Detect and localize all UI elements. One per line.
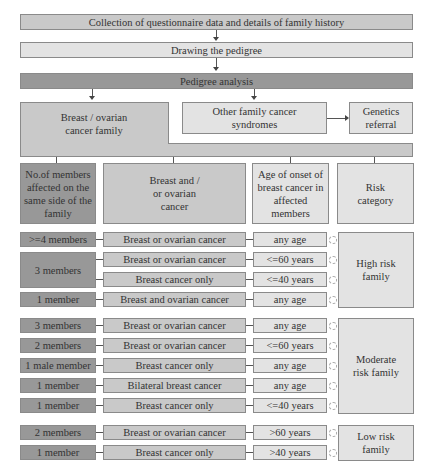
age-label: <=60 years (266, 339, 313, 352)
breast-family-label: Breast / ovarian cancer family (20, 102, 168, 146)
members-cell: 1 member (20, 292, 96, 307)
risk-low-label: Low risk family (353, 430, 399, 456)
cancer-cell: Breast and ovarian cancer (103, 292, 246, 307)
connector (246, 279, 253, 280)
age-cell: <=60 years (253, 338, 327, 353)
step-collection: Collection of questionnaire data and det… (20, 14, 413, 30)
cancer-cell: Breast cancer only (103, 445, 246, 460)
link-connector-icon (329, 382, 337, 390)
cancer-label: Breast or ovarian cancer (123, 233, 225, 246)
connector (96, 345, 103, 346)
cancer-label: Breast or ovarian cancer (123, 253, 225, 266)
age-label: <=40 years (266, 399, 313, 412)
age-cell: any age (253, 378, 327, 393)
arrow-down-icon (213, 67, 219, 71)
cancer-label: Breast or ovarian cancer (123, 319, 225, 332)
cancer-label: Bilateral breast cancer (128, 379, 222, 392)
connector (96, 259, 103, 260)
link-connector-icon (329, 256, 337, 264)
connector (96, 365, 103, 366)
step-pedigree-analysis: Pedigree analysis (20, 73, 413, 89)
header-cancer-label: Breast and / or ovarian cancer (149, 174, 200, 213)
members-label: 1 member (37, 399, 79, 412)
connector (246, 452, 253, 453)
other-syndromes-label: Other family cancer syndromes (203, 105, 306, 131)
members-cell: 3 members (20, 318, 96, 333)
age-label: <=40 years (266, 273, 313, 286)
risk-moderate-label: Moderate risk family (351, 353, 401, 379)
header-members-label: No.of members affected on the same side … (22, 168, 94, 220)
step-collection-label: Collection of questionnaire data and det… (89, 16, 344, 29)
header-age-label: Age of onset of breast cancer in affecte… (254, 168, 327, 220)
link-connector-icon (329, 429, 337, 437)
cancer-label: Breast and ovarian cancer (120, 293, 229, 306)
link-connector-icon (329, 236, 337, 244)
arrow-down-icon (213, 37, 219, 41)
members-cell: 1 male member (20, 358, 96, 373)
members-cell: 3 members (20, 252, 96, 288)
link-connector-icon (329, 322, 337, 330)
connector (96, 432, 103, 433)
members-label: 3 members (35, 264, 81, 277)
connector (96, 385, 103, 386)
genetics-referral-label: Genetics referral (358, 105, 404, 131)
arrow-down-icon (89, 96, 95, 100)
age-label: any age (274, 319, 306, 332)
lshape-edge (168, 143, 413, 144)
cancer-cell: Breast cancer only (103, 398, 246, 413)
members-label: >=4 members (29, 233, 87, 246)
connector (246, 239, 253, 240)
members-cell: >=4 members (20, 232, 96, 247)
link-connector-icon (329, 449, 337, 457)
header-cancer: Breast and / or ovarian cancer (103, 163, 246, 224)
age-cell: any age (253, 318, 327, 333)
members-cell: 2 members (20, 425, 96, 440)
age-cell: <=60 years (253, 252, 327, 267)
step-drawing-pedigree: Drawing the pedigree (20, 42, 413, 58)
connector (246, 345, 253, 346)
header-risk: Risk category (337, 163, 414, 224)
connector (96, 279, 103, 280)
cancer-cell: Breast cancer only (103, 358, 246, 373)
age-label: any age (274, 359, 306, 372)
connector (246, 365, 253, 366)
cancer-cell: Breast or ovarian cancer (103, 318, 246, 333)
connector (246, 385, 253, 386)
members-cell: 2 members (20, 338, 96, 353)
members-label: 1 member (37, 379, 79, 392)
age-label: any age (274, 379, 306, 392)
link-connector-icon (329, 402, 337, 410)
risk-high: High risk family (338, 232, 414, 308)
genetics-referral-box: Genetics referral (349, 102, 413, 134)
cancer-cell: Breast or ovarian cancer (103, 338, 246, 353)
connector (246, 432, 253, 433)
cancer-label: Breast cancer only (135, 359, 213, 372)
members-cell: 1 member (20, 378, 96, 393)
cancer-cell: Breast or ovarian cancer (103, 252, 246, 267)
lshape-edge (168, 102, 169, 144)
connector (96, 239, 103, 240)
connector (96, 299, 103, 300)
age-label: <=60 years (266, 253, 313, 266)
risk-moderate: Moderate risk family (338, 318, 414, 414)
members-label: 3 members (35, 319, 81, 332)
members-label: 2 members (35, 339, 81, 352)
age-cell: >60 years (253, 425, 327, 440)
cancer-label: Breast or ovarian cancer (123, 426, 225, 439)
connector (327, 118, 345, 119)
connector (246, 259, 253, 260)
lshape-bottom (168, 143, 413, 157)
members-cell: 1 member (20, 445, 96, 460)
members-label: 2 members (35, 426, 81, 439)
connector (96, 325, 103, 326)
age-label: any age (274, 233, 306, 246)
link-connector-icon (329, 342, 337, 350)
risk-high-label: High risk family (349, 257, 403, 283)
link-connector-icon (329, 362, 337, 370)
age-cell: <=40 years (253, 272, 327, 287)
cancer-label: Breast cancer only (135, 399, 213, 412)
members-cell: 1 member (20, 398, 96, 413)
connector (246, 325, 253, 326)
age-label: any age (274, 293, 306, 306)
header-age: Age of onset of breast cancer in affecte… (252, 163, 329, 224)
